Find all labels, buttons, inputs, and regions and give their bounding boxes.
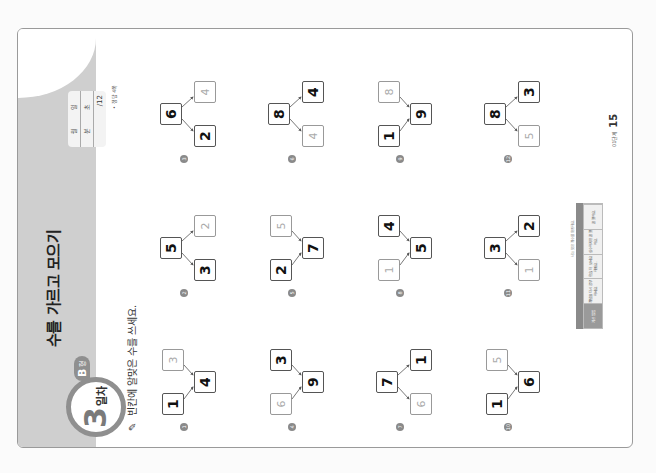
whole-box: 6	[160, 103, 182, 125]
page-title: 수를 가르고 모으기	[42, 230, 63, 347]
whole-box: 8	[484, 103, 506, 125]
problem-10: 10156	[482, 311, 542, 431]
part-box: 4	[302, 125, 324, 147]
footer-caption: 나는 맞은 개수를 확인해요.	[570, 220, 575, 257]
problem-1: 1134	[158, 311, 218, 431]
answer-note: • 정답 4쪽	[110, 85, 117, 109]
problem-11: 11312	[482, 177, 542, 297]
problem-12: 12853	[482, 43, 542, 163]
sum-box: 7	[302, 237, 324, 259]
whole-box: 8	[268, 103, 290, 125]
addend-box: 3	[162, 349, 184, 371]
problem-number: 11	[504, 289, 512, 297]
level-label: 01단계	[610, 131, 617, 147]
problem-number: 8	[396, 289, 404, 297]
problem-4: 4639	[266, 311, 326, 431]
problem-3: 3624	[158, 43, 218, 163]
problem-number: 4	[288, 423, 296, 431]
self-check-table: 계산 방법 개념을 다시 공부하세요. 학습 더 보세요 해봐요. 실수하지만 …	[576, 203, 602, 329]
day-word: 일차	[93, 386, 109, 406]
addend-box: 4	[378, 215, 400, 237]
level-tag: B 형	[74, 356, 90, 381]
score-row-date: 월 일	[68, 91, 81, 147]
whole-box: 3	[484, 237, 506, 259]
instruction: ✎ 빈칸에 알맞은 수를 쓰세요.	[124, 305, 139, 431]
addend-box: 1	[378, 259, 400, 281]
problem-7: 7761	[374, 311, 434, 431]
problem-number: 3	[180, 155, 188, 163]
self-check-cell: 잘 했어요.	[584, 204, 602, 229]
addend-box: 1	[378, 125, 400, 147]
problem-number: 9	[396, 155, 404, 163]
self-check-table-body: 계산 방법 개념을 다시 공부하세요. 학습 더 보세요 해봐요. 실수하지만 …	[583, 203, 603, 329]
problem-number: 1	[180, 423, 188, 431]
score-row-total: /12	[94, 91, 106, 147]
part-box: 4	[302, 81, 324, 103]
problem-2: 2532	[158, 177, 218, 297]
self-check-cell: 실수하지만 잘 했어요.	[584, 229, 602, 254]
sum-box: 9	[302, 371, 324, 393]
day-number: 3	[81, 407, 111, 428]
part-box: 3	[194, 259, 216, 281]
sum-box: 4	[194, 371, 216, 393]
level-letter: B	[76, 369, 89, 377]
score-minute-label: 분	[81, 128, 93, 134]
whole-box: 5	[160, 237, 182, 259]
page-footer: 01단계 15	[608, 114, 619, 147]
problem-number: 12	[504, 155, 512, 163]
score-second-label: 초	[81, 104, 93, 110]
day-badge: 3 일차	[66, 377, 126, 437]
problem-number: 6	[288, 155, 296, 163]
addend-box: 2	[270, 259, 292, 281]
level-word: 형	[77, 361, 87, 367]
problem-number: 7	[396, 423, 404, 431]
self-check-table-head	[576, 203, 583, 329]
instruction-text: 빈칸에 알맞은 수를 쓰세요.	[127, 305, 138, 417]
sum-box: 5	[410, 237, 432, 259]
problem-number: 5	[288, 289, 296, 297]
sum-box: 9	[410, 103, 432, 125]
part-box: 2	[194, 125, 216, 147]
score-day-label: 일	[68, 104, 80, 110]
problem-8: 8145	[374, 177, 434, 297]
addend-box: 5	[486, 349, 508, 371]
page-number: 15	[608, 114, 619, 128]
part-box: 3	[518, 81, 540, 103]
worksheet-sheet: 3 일차 B 형 수를 가르고 모으기 월 일 분 초 /12 • 정답 4쪽 …	[17, 28, 633, 448]
whole-box: 7	[376, 371, 398, 393]
part-box: 6	[410, 393, 432, 415]
score-month-label: 월	[68, 128, 80, 134]
addend-box: 3	[270, 349, 292, 371]
problem-6: 6844	[266, 43, 326, 163]
problem-9: 9189	[374, 43, 434, 163]
part-box: 2	[194, 215, 216, 237]
addend-box: 1	[486, 393, 508, 415]
score-row-time: 분 초	[81, 91, 94, 147]
part-box: 1	[518, 259, 540, 281]
addend-box: 6	[270, 393, 292, 415]
part-box: 4	[194, 81, 216, 103]
part-box: 1	[410, 349, 432, 371]
problem-5: 5257	[266, 177, 326, 297]
worksheet-page: 3 일차 B 형 수를 가르고 모으기 월 일 분 초 /12 • 정답 4쪽 …	[17, 28, 633, 448]
addend-box: 5	[270, 215, 292, 237]
addend-box: 8	[378, 81, 400, 103]
problem-number: 10	[504, 423, 512, 431]
part-box: 2	[518, 215, 540, 237]
pencil-icon: ✎	[127, 423, 138, 431]
sum-box: 6	[518, 371, 540, 393]
self-check-cell: 계산 방법	[584, 303, 602, 328]
score-box: 월 일 분 초 /12	[68, 91, 106, 147]
part-box: 5	[518, 125, 540, 147]
addend-box: 1	[162, 393, 184, 415]
score-total: /12	[94, 95, 106, 106]
problem-number: 2	[180, 289, 188, 297]
self-check-cell: 학습 더 보세요 해봐요.	[584, 254, 602, 279]
self-check-cell: 개념을 다시 공부하세요.	[584, 278, 602, 303]
